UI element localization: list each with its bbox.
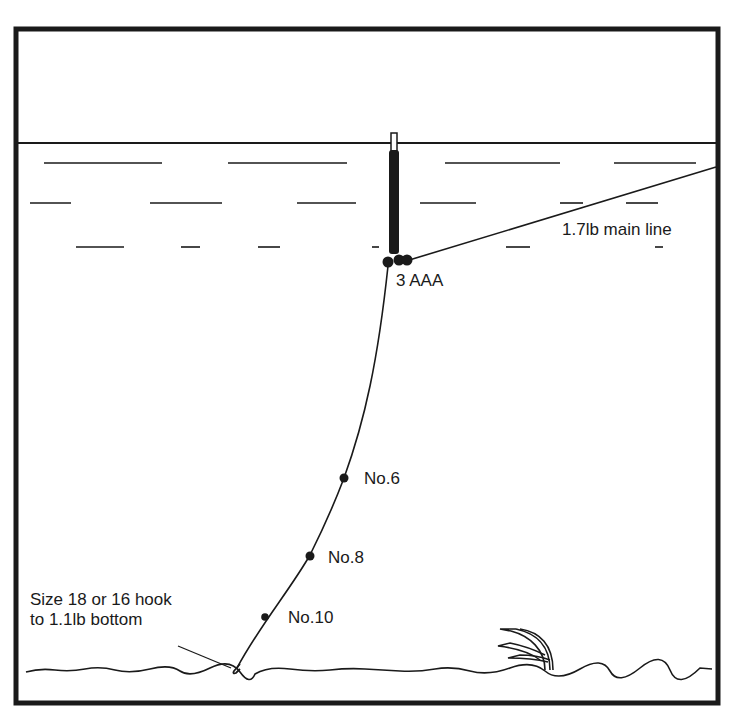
- bulk-shot-icon: [383, 255, 413, 268]
- hook-label-line1: Size 18 or 16 hook: [30, 590, 172, 610]
- main-line: [406, 167, 716, 261]
- float-icon: [389, 133, 399, 254]
- shot-no6-icon: [340, 474, 349, 483]
- shot-no6-label: No.6: [364, 469, 400, 489]
- shot-no10-icon: [261, 613, 269, 621]
- shot-no10-label: No.10: [288, 608, 333, 628]
- weed-icon: [498, 629, 553, 670]
- main-line-label: 1.7lb main line: [562, 220, 672, 240]
- bulk-shot-label: 3 AAA: [396, 271, 443, 291]
- shot-no8-label: No.8: [328, 548, 364, 568]
- hook-label-line2: to 1.1lb bottom: [30, 610, 142, 630]
- river-bed-line: [26, 659, 712, 679]
- shot-no8-icon: [306, 552, 315, 561]
